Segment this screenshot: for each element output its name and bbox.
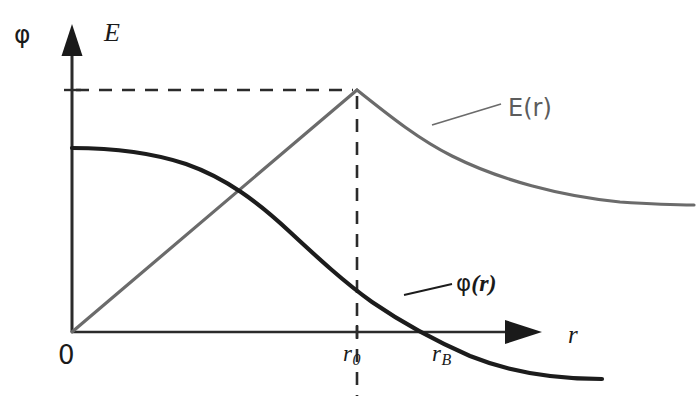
tick-label-r0-base: r — [343, 341, 352, 366]
tick-label-rb: rB — [432, 342, 451, 368]
y-axis-label-e: E — [104, 20, 120, 46]
curve-label-phi-close: ) — [489, 270, 497, 296]
guide-lines — [76, 90, 357, 396]
tick-label-rb-base: r — [432, 341, 441, 366]
physics-diagram-figure: φ E r 0 r0 rB E(r) φ(r) — [0, 0, 696, 403]
curve-label-phi-symbol: φ — [456, 270, 471, 296]
curve-E — [72, 90, 694, 332]
axis-group — [62, 24, 543, 344]
tick-label-rb-subscript: B — [441, 351, 451, 368]
leader-lines — [404, 104, 501, 295]
curve-label-phi-open: ( — [471, 270, 479, 296]
curve-E-rising-segment — [72, 90, 357, 332]
curve-label-e: E(r) — [508, 96, 552, 120]
x-axis-label-r: r — [568, 322, 578, 347]
curve-label-phi-var: r — [479, 270, 488, 296]
curve-label-phi: φ(r) — [456, 271, 497, 295]
y-axis-label-phi: φ — [14, 22, 31, 47]
x-axis-arrowhead — [505, 320, 542, 344]
y-axis-arrowhead — [62, 24, 83, 56]
phi-curve-leader-line — [404, 284, 452, 295]
tick-label-r0-subscript: 0 — [352, 351, 361, 368]
tick-label-r0: r0 — [343, 342, 360, 368]
e-curve-leader-line — [432, 104, 501, 125]
origin-label: 0 — [58, 342, 75, 368]
